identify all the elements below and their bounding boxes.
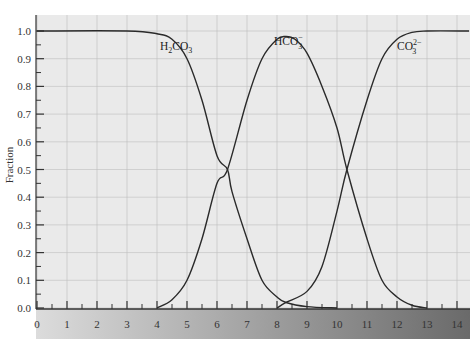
x-tick-label: 7 (244, 318, 250, 330)
y-tick-label: 0.2 (17, 247, 31, 259)
y-tick-label: 0.5 (17, 164, 31, 176)
x-tick-label: 6 (214, 318, 220, 330)
x-tick-label: 10 (332, 318, 344, 330)
y-tick-label: 0.1 (17, 274, 31, 286)
y-tick-label: 0.4 (17, 191, 31, 203)
x-tick-label: 0 (34, 318, 40, 330)
x-tick-label: 8 (274, 318, 280, 330)
y-tick-label: 0.7 (17, 108, 31, 120)
x-tick-label: 12 (392, 318, 403, 330)
x-tick-label: 14 (452, 318, 464, 330)
y-tick-label: 0.6 (17, 136, 31, 148)
y-tick-label: 1.0 (17, 25, 31, 37)
x-tick-label: 4 (154, 318, 160, 330)
plot-background (36, 15, 470, 309)
y-tick-label: 0.3 (17, 219, 31, 231)
x-tick-label: 1 (64, 318, 70, 330)
x-tick-label: 9 (304, 318, 310, 330)
y-tick-label: 0.9 (17, 53, 31, 65)
x-tick-label: 13 (422, 318, 434, 330)
x-axis-band (36, 309, 470, 339)
x-tick-label: 5 (184, 318, 190, 330)
x-tick-label: 3 (124, 318, 130, 330)
y-tick-label: 0.8 (17, 80, 31, 92)
y-axis-title: Fraction (3, 146, 15, 183)
y-tick-label: 0.0 (17, 302, 31, 314)
x-tick-label: 2 (94, 318, 100, 330)
species-fraction-chart: 0.00.10.20.30.40.50.60.70.80.91.00123456… (0, 0, 474, 345)
x-tick-label: 11 (362, 318, 373, 330)
